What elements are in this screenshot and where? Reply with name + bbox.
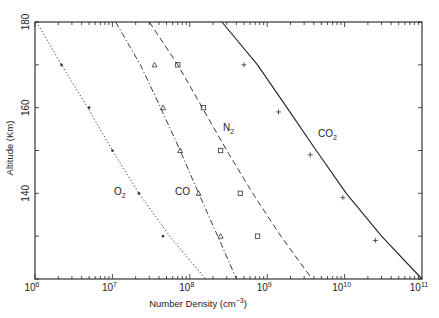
marker-co [152,62,157,67]
model-curves [37,22,422,279]
species-labels: O2CON2CO2 [114,122,337,199]
y-tick-label: 180 [20,13,31,30]
x-tick-label: 107 [102,281,117,293]
label-n2: N2 [223,122,234,135]
marker-n2 [218,148,222,152]
marker-o2 [111,149,114,152]
marker-n2 [238,191,242,195]
marker-co2 [276,109,281,114]
plot-frame [35,22,422,279]
marker-co [160,105,165,110]
y-tick-label: 140 [20,185,31,202]
y-tick-label: 160 [20,99,31,116]
y-axis-title: Altitude (Km) [4,121,15,176]
x-axis-title: Number Density (cm−3) [149,297,247,309]
chart-canvas: 10610710810910101011140160180 O2CON2CO2 … [0,0,439,318]
curve-n2 [149,22,312,279]
curve-co2 [222,22,422,279]
x-tick-label: 1010 [332,281,351,293]
marker-o2 [88,106,91,109]
marker-co2 [340,195,345,200]
marker-o2 [138,192,141,195]
marker-co [196,191,201,196]
x-tick-label: 108 [179,281,194,293]
marker-co2 [373,238,378,243]
x-tick-label: 109 [257,281,272,293]
marker-co2 [241,62,246,67]
x-tick-label: 1011 [410,281,428,293]
x-tick-label: 106 [24,281,39,293]
marker-co2 [308,152,313,157]
marker-o2 [162,235,165,238]
label-co: CO [175,186,190,197]
marker-n2 [255,234,259,238]
plot-border [35,22,422,279]
observed-markers [60,62,378,243]
label-co2: CO2 [318,128,337,141]
curve-o2 [37,22,206,279]
label-o2: O2 [114,186,126,199]
marker-o2 [60,64,63,67]
marker-co [218,234,223,239]
